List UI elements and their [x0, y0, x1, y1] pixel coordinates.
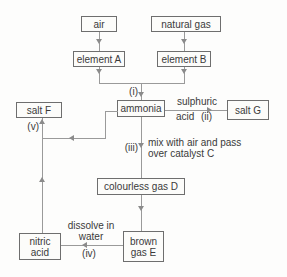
connector-ammonia-to-salt-g — [165, 110, 227, 111]
connector-salt-f-to-nitric-acid — [42, 118, 43, 233]
label-over-catalyst-c: over catalyst C — [148, 148, 214, 159]
step-label-iii: (iii) — [119, 142, 138, 153]
connector-gas-e-to-nitric-acid — [61, 245, 123, 246]
arrowhead-to-gas-d-icon — [138, 143, 144, 148]
arrowhead-element-a-out-icon — [96, 69, 102, 74]
label-water: water — [64, 231, 118, 242]
box-salt-g: salt G — [227, 100, 269, 120]
box-element-b: element B — [157, 51, 211, 67]
arrowhead-into-salt-f-icon — [39, 119, 45, 124]
arrowhead-ammonia-to-junction-icon — [69, 135, 74, 141]
label-sulphuric: sulphuric — [168, 96, 226, 107]
arrowhead-element-b-out-icon — [181, 69, 187, 74]
connector-ammonia-left-down — [105, 111, 106, 139]
step-label-v: (v) — [22, 121, 39, 132]
box-salt-f: salt F — [16, 102, 62, 118]
connector-gas-d-to-gas-e — [141, 195, 142, 231]
box-colourless-gas-d: colourless gas D — [97, 178, 185, 195]
box-element-a: element A — [73, 51, 125, 67]
arrowhead-into-element-a-icon — [96, 39, 102, 44]
label-dissolve-in: dissolve in — [64, 220, 118, 231]
step-label-i: (i) — [118, 86, 138, 97]
flow-diagram: air natural gas element A element B ammo… — [0, 0, 287, 277]
connector-merge-horizontal — [99, 83, 185, 84]
box-ammonia: ammonia — [117, 100, 165, 117]
box-natural-gas: natural gas — [151, 16, 221, 32]
box-brown-gas-e: brown gas E — [123, 231, 164, 262]
step-label-ii: (ii) — [201, 111, 212, 122]
arrowhead-nitric-acid-up-icon — [39, 177, 45, 182]
connector-ammonia-left-stub — [105, 111, 118, 112]
box-nitric-acid: nitric acid — [19, 233, 61, 260]
label-acid: acid — [176, 111, 194, 122]
arrowhead-into-element-b-icon — [181, 39, 187, 44]
step-label-iv: (iv) — [76, 248, 102, 259]
box-air: air — [81, 16, 117, 32]
label-mix-with-air: mix with air and pass — [148, 137, 241, 148]
arrowhead-into-ammonia-icon — [138, 92, 144, 97]
connector-junction-horizontal — [42, 138, 106, 139]
arrowhead-to-gas-e-icon — [138, 206, 144, 211]
